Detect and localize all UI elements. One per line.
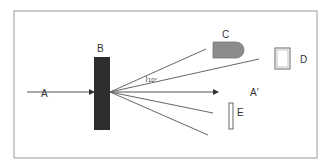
label-a-prime: A': [250, 87, 259, 98]
detector-e: [229, 103, 233, 129]
label-c: C: [222, 29, 229, 40]
label-a: A: [41, 88, 48, 99]
label-d: D: [300, 54, 307, 65]
detector-c: [213, 42, 244, 58]
diagram-canvas: A B C D E A' 10°: [0, 0, 331, 167]
label-e: E: [237, 107, 244, 118]
label-b: B: [97, 43, 104, 54]
block-b: [94, 57, 110, 130]
label-angle: 10°: [148, 77, 158, 83]
diagram-frame: [14, 11, 317, 158]
